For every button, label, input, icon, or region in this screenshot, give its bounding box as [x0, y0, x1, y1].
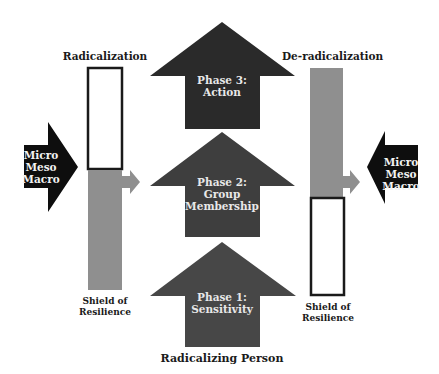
right-influence-meso: Meso [380, 168, 422, 180]
left-influence-text: Micro Meso Macro [20, 149, 62, 185]
phase2-title: Phase 2: [172, 176, 272, 188]
left-shield-bar [88, 170, 122, 290]
left-shield-label: Shield of Resilience [70, 296, 140, 318]
right-influence-micro: Micro [380, 156, 422, 168]
phase2-text: Phase 2: Group Membership [172, 176, 272, 212]
right-influence-macro: Macro [380, 180, 422, 192]
left-shield-line1: Shield of [70, 296, 140, 307]
right-deradicalization-box [311, 198, 344, 295]
left-shield-line2: Resilience [70, 307, 140, 318]
right-shield-line2: Resilience [293, 313, 363, 324]
right-shield-line1: Shield of [293, 302, 363, 313]
left-influence-meso: Meso [20, 161, 62, 173]
phase3-name: Action [172, 86, 272, 98]
radicalizing-person-label: Radicalizing Person [152, 353, 292, 365]
phase2-name-line1: Group [172, 188, 272, 200]
phase1-title: Phase 1: [172, 291, 272, 303]
right-shield-label: Shield of Resilience [293, 302, 363, 324]
phase3-title: Phase 3: [172, 74, 272, 86]
left-influence-micro: Micro [20, 149, 62, 161]
left-influence-macro: Macro [20, 173, 62, 185]
right-influence-text: Micro Meso Macro [380, 156, 422, 192]
right-shield-bar [310, 68, 343, 197]
phase3-text: Phase 3: Action [172, 74, 272, 98]
right-small-arrow [343, 170, 360, 194]
deradicalization-title: De-radicalization [282, 50, 382, 62]
phase1-text: Phase 1: Sensitivity [172, 291, 272, 315]
radicalization-title: Radicalization [60, 50, 150, 62]
phase2-name-line2: Membership [172, 200, 272, 212]
left-radicalization-box [88, 68, 122, 169]
phase1-name: Sensitivity [172, 303, 272, 315]
left-small-arrow [122, 170, 140, 194]
